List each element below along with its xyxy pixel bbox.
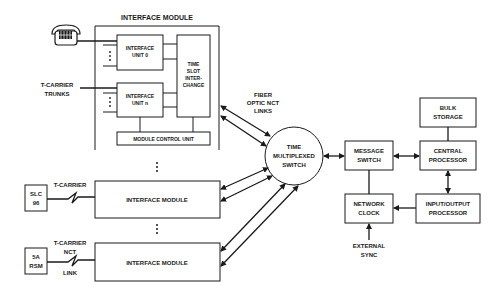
external-sync-label-1: EXTERNAL [353,243,386,249]
5a-rsm-box [25,248,47,274]
ellipsis-dot [156,162,158,164]
ellipsis-dot [109,97,111,99]
fiber-link-bottom-2 [221,186,298,266]
tsi-label-2: SLOT [187,68,200,74]
central-processor-label-2: PROCESSOR [429,157,468,163]
network-clock-label-2: CLOCK [358,210,380,216]
network-clock-label-1: NETWORK [354,201,386,207]
fiber-link-middle-2 [221,176,272,201]
ellipsis-dot [156,170,158,172]
slc-96-label-2: 96 [33,200,40,206]
tsi-label-3: INTER- [185,75,202,81]
interface-unit-0-label-2: UNIT 0 [132,52,148,58]
ellipsis-dot [109,59,111,61]
io-processor-label-1: INPUT/OUTPUT [426,201,471,207]
slc-t-carrier-label: T-CARRIER [54,182,87,188]
rsm-link-label-1: T-CARRIER [54,240,87,246]
ellipsis-dot [156,166,158,168]
tms-label-2: MULTIPLEXED [273,153,316,159]
ellipsis-dot [156,228,158,230]
5a-rsm-label-1: 5A [32,254,40,260]
interface-module-middle-label: INTERFACE MODULE [126,197,188,203]
tms-label-3: SWITCH [282,162,306,168]
ellipsis-dot [156,232,158,234]
diagram-canvas: INTERFACE MODULE INTERFACE UNIT 0 INTERF… [0,0,502,297]
tms-label-1: TIME [287,144,301,150]
slc-t-carrier-link [47,193,95,203]
module-control-unit-label: MODULE CONTROL UNIT [133,136,194,142]
5a-rsm-label-2: RSM [29,263,42,269]
fiber-optic-label-3: LINKS [254,108,272,114]
tsi-label-4: CHANGE [183,82,205,88]
rsm-link-label-2: NCT [64,249,77,255]
interface-module-bottom-label: INTERFACE MODULE [126,260,188,266]
fiber-optic-label-2: OPTIC NCT [247,100,280,106]
interface-unit-0-label-1: INTERFACE [126,45,155,51]
central-processor-label-1: CENTRAL [434,148,463,154]
external-sync-label-2: SYNC [361,252,378,258]
fiber-link-middle-1 [221,168,268,189]
message-switch-box [345,141,393,170]
io-processor-label-2: PROCESSOR [429,210,468,216]
bulk-storage-box [420,98,476,127]
slc-96-label-1: SLC [30,191,43,197]
slc-96-box [25,185,47,211]
t-carrier-trunks-label-1: T-CARRIER [41,82,74,88]
t-carrier-trunks-label-2: TRUNKS [45,91,70,97]
interface-module-top: INTERFACE MODULE INTERFACE UNIT 0 INTERF… [95,14,219,150]
interface-module-top-title: INTERFACE MODULE [121,14,193,21]
rsm-link-label-3: LINK [63,270,78,276]
ellipsis-dot [109,55,111,57]
ellipsis-dot [109,101,111,103]
message-switch-label-1: MESSAGE [354,148,384,154]
fiber-optic-label-1: FIBER [254,92,273,98]
bulk-storage-label-2: STORAGE [433,114,463,120]
ellipsis-dot [109,105,111,107]
io-processor-box [416,194,480,223]
message-switch-label-2: SWITCH [357,157,381,163]
central-processor-box [420,141,476,170]
fiber-link-bottom-1 [221,184,285,251]
ellipsis-dot [156,224,158,226]
rsm-nct-link [47,256,95,266]
telephone-icon [52,25,80,45]
network-clock-box [345,194,393,223]
interface-unit-n-label-1: INTERFACE [126,93,155,99]
interface-unit-n-label-2: UNIT n [132,100,148,106]
bulk-storage-label-1: BULK [440,105,457,111]
tsi-label-1: TIME [188,61,201,67]
ellipsis-dot [109,51,111,53]
